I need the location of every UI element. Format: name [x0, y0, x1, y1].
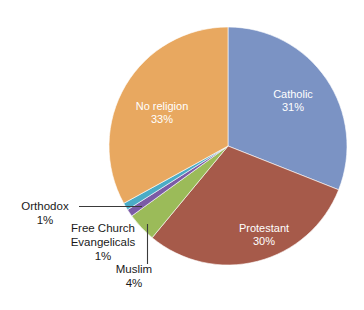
- callout-label-orthodox-name: Orthodox: [12, 199, 78, 213]
- slice-label-protestant-value: 30%: [222, 235, 306, 248]
- slice-label-catholic-value: 31%: [258, 101, 328, 114]
- pie-chart: Catholic 31% Protestant 30% No religion …: [0, 0, 364, 310]
- callout-label-muslim-value: 4%: [104, 276, 164, 290]
- callout-label-free-church-evangelicals-name-line2: Evangelicals: [66, 235, 140, 249]
- slice-label-protestant: Protestant 30%: [222, 222, 306, 248]
- callout-label-muslim: Muslim 4%: [104, 262, 164, 290]
- slice-label-no-religion: No religion 33%: [117, 100, 207, 126]
- slice-label-catholic: Catholic 31%: [258, 88, 328, 114]
- callout-label-muslim-name: Muslim: [104, 262, 164, 276]
- callout-label-free-church-evangelicals: Free Church Evangelicals 1%: [66, 221, 140, 263]
- slice-label-no-religion-name: No religion: [117, 100, 207, 113]
- slice-label-protestant-name: Protestant: [222, 222, 306, 235]
- slice-label-catholic-name: Catholic: [258, 88, 328, 101]
- callout-label-free-church-evangelicals-name-line1: Free Church: [66, 221, 140, 235]
- callout-label-free-church-evangelicals-value: 1%: [66, 249, 140, 263]
- pie-chart-svg: [0, 0, 364, 310]
- slice-label-no-religion-value: 33%: [117, 113, 207, 126]
